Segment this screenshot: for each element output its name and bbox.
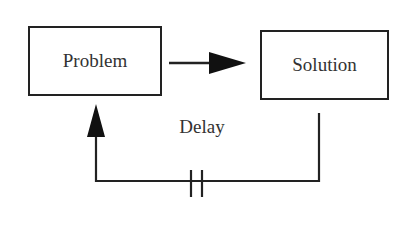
forward-arrow	[169, 52, 246, 74]
delay-label: Delay	[170, 116, 234, 138]
solution-label: Solution	[292, 54, 356, 76]
problem-label: Problem	[63, 50, 127, 72]
problem-node: Problem	[28, 26, 162, 96]
delay-mark-icon	[191, 170, 202, 197]
solution-node: Solution	[260, 30, 389, 100]
